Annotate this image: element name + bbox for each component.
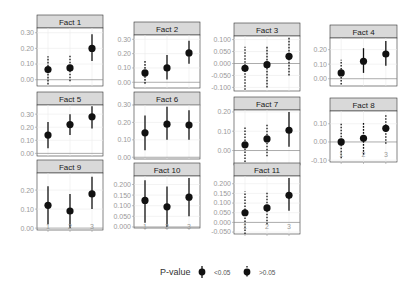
x-tick-label: 2 <box>68 223 72 230</box>
facet-panel-3: Fact 30.1000.0500.000-0.050-0.100 <box>211 23 300 91</box>
y-tick-label: 0.00 <box>117 154 131 161</box>
y-tick-label: 0.20 <box>20 187 34 194</box>
facet-panel-4: Fact 40.000.100.20 <box>313 25 397 86</box>
estimate-point <box>241 209 248 216</box>
y-tick-label: -0.050 <box>211 228 231 235</box>
estimate-point <box>141 69 148 76</box>
y-tick-label: -0.10 <box>311 157 327 164</box>
y-tick-label: 0.050 <box>213 48 231 55</box>
y-tick-label: 0.150 <box>213 190 231 197</box>
y-tick-label: -0.100 <box>211 84 231 91</box>
estimate-point <box>338 138 345 145</box>
y-tick-label: 0.30 <box>20 29 34 36</box>
y-tick-label: 0.20 <box>117 50 131 57</box>
estimate-point <box>263 204 270 211</box>
y-tick-label: 0.10 <box>20 137 34 144</box>
y-tick-label: 0.30 <box>117 101 131 108</box>
facet-title: Fact 6 <box>156 95 179 104</box>
legend-label: <0.05 <box>214 269 231 276</box>
legend-key-point <box>199 269 206 276</box>
y-tick-label: 0.20 <box>313 46 327 53</box>
facet-title: Fact 3 <box>256 26 279 35</box>
estimate-point <box>163 121 170 128</box>
estimate-point <box>338 69 345 76</box>
legend-title: P-value <box>160 267 191 277</box>
facet-title: Fact 7 <box>256 100 279 109</box>
estimate-point <box>44 131 51 138</box>
y-tick-label: 0.30 <box>20 111 34 118</box>
y-tick-label: 0.10 <box>20 206 34 213</box>
facet-panel-5: Fact 50.000.100.200.30 <box>20 92 103 157</box>
x-tick-label: 1 <box>46 223 50 230</box>
y-tick-label: 0.00 <box>20 225 34 232</box>
y-tick-label: 0.00 <box>313 75 327 82</box>
y-tick-label: 0.000 <box>213 60 231 67</box>
facet-title: Fact 4 <box>352 28 375 37</box>
estimate-point <box>44 66 51 73</box>
facet-panel-1: Fact 10.000.100.200.30 <box>20 15 103 86</box>
x-tick-label: 3 <box>90 223 94 230</box>
estimate-point <box>44 202 51 209</box>
facet-panel-10: Fact 100.2000.1500.1000.0500.000 <box>113 163 200 230</box>
y-tick-label: -0.050 <box>211 72 231 79</box>
x-tick-label: 2 <box>165 223 169 230</box>
faceted-point-range-chart: Fact 10.000.100.200.30Fact 20.000.100.20… <box>0 0 418 296</box>
legend-label: >0.05 <box>259 269 276 276</box>
facet-panel-7: Fact 70.000.100.20 <box>217 97 300 165</box>
y-tick-label: 0.20 <box>217 108 231 115</box>
y-tick-label: 0.30 <box>117 36 131 43</box>
estimate-point <box>185 49 192 56</box>
facet-panel-6: Fact 60.000.100.200.30 <box>117 92 200 161</box>
estimate-point <box>285 192 292 199</box>
x-tick-label: 1 <box>339 151 343 158</box>
facet-title: Fact 10 <box>154 166 181 175</box>
x-tick-label: 3 <box>187 223 191 230</box>
estimate-point <box>88 113 95 120</box>
estimate-point <box>382 125 389 132</box>
x-tick-label: 2 <box>362 151 366 158</box>
y-tick-label: 0.00 <box>20 76 34 83</box>
estimate-point <box>88 45 95 52</box>
facet-panel-2: Fact 20.000.100.200.30 <box>117 22 200 88</box>
y-tick-label: 0.000 <box>113 223 131 230</box>
estimate-point <box>163 64 170 71</box>
y-tick-label: 0.10 <box>217 128 231 135</box>
estimate-point <box>141 129 148 136</box>
estimate-point <box>185 194 192 201</box>
y-tick-label: 0.20 <box>20 45 34 52</box>
x-tick-label: 1 <box>143 223 147 230</box>
y-tick-label: 0.10 <box>117 64 131 71</box>
estimate-point <box>88 190 95 197</box>
x-tick-label: 3 <box>384 151 388 158</box>
estimate-point <box>241 141 248 148</box>
facet-title: Fact 8 <box>352 101 375 110</box>
y-tick-label: 0.10 <box>313 61 327 68</box>
estimate-point <box>382 50 389 57</box>
y-tick-label: 0.000 <box>213 219 231 226</box>
facet-title: Fact 2 <box>156 25 179 34</box>
y-tick-label: 0.00 <box>313 138 327 145</box>
y-tick-label: 0.100 <box>213 36 231 43</box>
y-tick-label: 0.200 <box>213 180 231 187</box>
x-tick-label: 1 <box>243 223 247 230</box>
y-tick-label: 0.100 <box>213 199 231 206</box>
legend-key-point <box>244 269 251 276</box>
facet-title: Fact 5 <box>59 95 82 104</box>
y-tick-label: 0.00 <box>117 79 131 86</box>
estimate-point <box>185 121 192 128</box>
estimate-point <box>66 64 73 71</box>
facet-title: Fact 9 <box>59 163 82 172</box>
facet-title: Fact 11 <box>254 166 281 175</box>
estimate-point <box>263 135 270 142</box>
estimate-point <box>263 61 270 68</box>
estimate-point <box>66 207 73 214</box>
y-tick-label: 0.050 <box>213 209 231 216</box>
estimate-point <box>360 135 367 142</box>
y-tick-label: 0.10 <box>117 136 131 143</box>
facet-title: Fact 1 <box>59 18 82 27</box>
facet-panel-9: Fact 90.000.100.20 <box>20 160 103 232</box>
y-tick-label: 0.10 <box>20 60 34 67</box>
y-tick-label: 0.20 <box>20 124 34 131</box>
y-tick-label: 0.10 <box>313 120 327 127</box>
estimate-point <box>241 65 248 72</box>
